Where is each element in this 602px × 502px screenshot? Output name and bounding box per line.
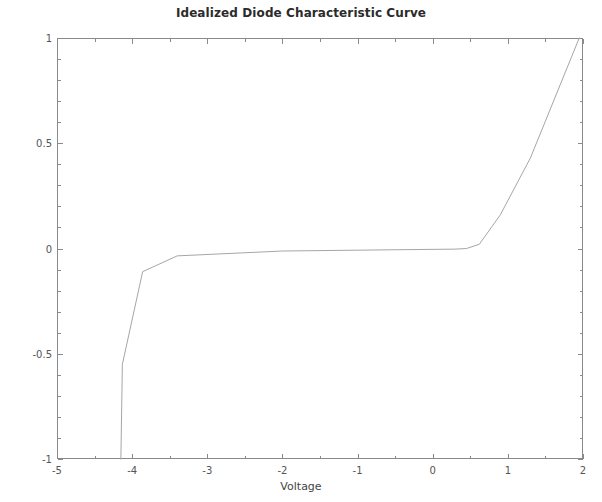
y-tick-label: 0.5 [36, 138, 52, 149]
x-tick-label: -3 [202, 465, 212, 476]
x-tick-label: -1 [353, 465, 363, 476]
y-tick-label: 1 [46, 33, 52, 44]
chart-canvas [0, 0, 602, 502]
x-tick-label: -2 [277, 465, 287, 476]
x-tick-label: -5 [52, 465, 62, 476]
x-axis-label: Voltage [0, 480, 602, 493]
x-tick-label: 2 [580, 465, 586, 476]
x-tick-label: -4 [127, 465, 137, 476]
x-tick-label: 0 [430, 465, 436, 476]
y-tick-label: -1 [42, 454, 52, 465]
y-tick-label: -0.5 [32, 348, 52, 359]
x-tick-label: 1 [505, 465, 511, 476]
plot-background [57, 38, 583, 459]
y-tick-label: 0 [46, 243, 52, 254]
chart-figure: Idealized Diode Characteristic Curve -1-… [0, 0, 602, 502]
